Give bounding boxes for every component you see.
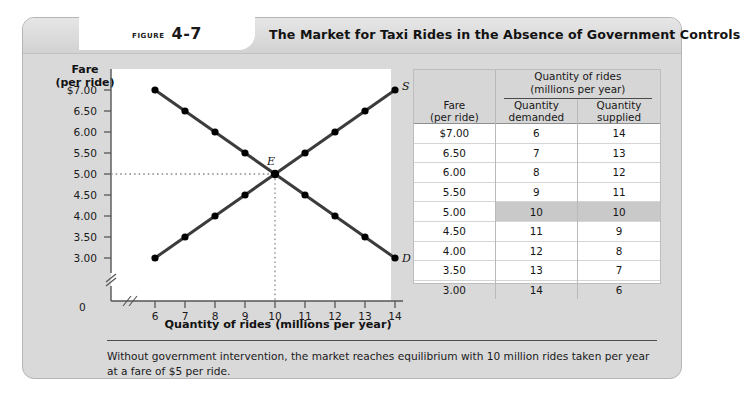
cell-quantity-supplied: 13 <box>578 143 660 163</box>
y-axis-ticks <box>104 90 111 258</box>
cell-quantity-demanded: 12 <box>495 241 577 261</box>
table-body: $7.006146.507136.008125.509115.0010104.5… <box>414 124 660 300</box>
cell-quantity-demanded: 14 <box>495 280 577 299</box>
header-quantity-of-rides: Quantity of rides (millions per year) <box>495 70 660 99</box>
cell-quantity-supplied: 9 <box>578 221 660 241</box>
header-supplied-line2: supplied <box>578 111 660 123</box>
cell-quantity-supplied: 10 <box>578 202 660 222</box>
cell-fare: 3.50 <box>414 261 495 281</box>
y-tick-label-4: 5.00 <box>39 168 97 180</box>
cell-quantity-demanded: 11 <box>495 221 577 241</box>
header-quantity-demanded: Quantity demanded <box>495 99 577 124</box>
table-row: $7.00614 <box>414 124 660 144</box>
table-row: 4.50119 <box>414 221 660 241</box>
header-fare-line1: Fare <box>414 99 495 111</box>
y-tick-label-8: 3.00 <box>39 252 97 264</box>
cell-fare: 3.00 <box>414 280 495 299</box>
header-quantity-line2: (millions per year) <box>496 83 660 96</box>
cell-quantity-supplied: 11 <box>578 182 660 202</box>
y-tick-label-1: 6.50 <box>39 105 97 117</box>
y-tick-label-0: $7.00 <box>39 84 97 96</box>
figure-panel: Figure 4-7 The Market for Taxi Rides in … <box>22 17 682 379</box>
y-axis-break-mark-1 <box>106 274 116 282</box>
cell-quantity-supplied: 12 <box>578 163 660 183</box>
y-axis-break-mark-2 <box>106 278 116 286</box>
table-row: 3.50137 <box>414 261 660 281</box>
x-axis-title: Quantity of rides (millions per year) <box>113 318 443 331</box>
x-axis-ticks <box>155 301 395 308</box>
cell-quantity-demanded: 13 <box>495 261 577 281</box>
table-row: 6.50713 <box>414 143 660 163</box>
header-demanded-line2: demanded <box>496 111 577 123</box>
y-tick-label-2: 6.00 <box>39 126 97 138</box>
header-quantity-supplied: Quantity supplied <box>578 99 660 124</box>
table-row: 5.001010 <box>414 202 660 222</box>
cell-quantity-supplied: 7 <box>578 261 660 281</box>
header-quantity-line1: Quantity of rides <box>496 70 660 83</box>
cell-quantity-supplied: 6 <box>578 280 660 299</box>
caption-divider <box>107 340 657 341</box>
header-demanded-line1: Quantity <box>496 99 577 111</box>
table-header-span-row: Fare (per ride) Quantity of rides (milli… <box>414 70 660 99</box>
figure-caption: Without government intervention, the mar… <box>107 349 663 378</box>
table-row: 3.00146 <box>414 280 660 299</box>
y-tick-label-3: 5.50 <box>39 147 97 159</box>
equilibrium-point-marker <box>271 170 279 178</box>
table-head: Fare (per ride) Quantity of rides (milli… <box>414 70 660 124</box>
y-tick-label-7: 3.50 <box>39 231 97 243</box>
equilibrium-label: E <box>267 155 275 168</box>
cell-fare: 4.50 <box>414 221 495 241</box>
data-table-container: Fare (per ride) Quantity of rides (milli… <box>413 69 661 284</box>
cell-quantity-supplied: 8 <box>578 241 660 261</box>
cell-fare: 5.50 <box>414 182 495 202</box>
cell-quantity-demanded: 6 <box>495 124 577 144</box>
y-tick-label-6: 4.00 <box>39 210 97 222</box>
y-tick-label-5: 4.50 <box>39 189 97 201</box>
table-row: 5.50911 <box>414 182 660 202</box>
cell-fare: $7.00 <box>414 124 495 144</box>
cell-quantity-demanded: 10 <box>495 202 577 222</box>
cell-quantity-demanded: 9 <box>495 182 577 202</box>
x-axis-origin-label: 0 <box>79 301 86 313</box>
demand-curve-label: D <box>402 252 411 265</box>
cell-fare: 4.00 <box>414 241 495 261</box>
table-row: 4.00128 <box>414 241 660 261</box>
header-fare-line2: (per ride) <box>414 111 495 123</box>
cell-quantity-demanded: 8 <box>495 163 577 183</box>
cell-quantity-supplied: 14 <box>578 124 660 144</box>
cell-fare: 6.50 <box>414 143 495 163</box>
header-fare: Fare (per ride) <box>414 70 495 124</box>
header-supplied-line1: Quantity <box>578 99 660 111</box>
table-row: 6.00812 <box>414 163 660 183</box>
cell-fare: 6.00 <box>414 163 495 183</box>
quantity-table: Fare (per ride) Quantity of rides (milli… <box>414 70 660 299</box>
cell-quantity-demanded: 7 <box>495 143 577 163</box>
cell-fare: 5.00 <box>414 202 495 222</box>
supply-curve-label: S <box>402 80 410 93</box>
